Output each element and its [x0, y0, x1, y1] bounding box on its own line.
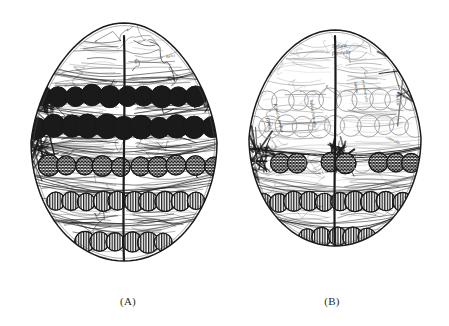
figure-caption-a: (A) — [98, 295, 158, 307]
figure-b-row-3-mixed — [255, 152, 421, 174]
figure-plate: Sulcigyrusossasutura SuturafrontalisGyru… — [0, 0, 449, 326]
figure-b-annotation-10: gyrus — [314, 203, 324, 209]
figure-b-drawing: SuturafrontalisGyrusfrontalis mediusSulc… — [236, 22, 434, 270]
figure-a-drawing: Sulcigyrusossasutura — [18, 14, 230, 286]
figure-b-annotation-7: Sulcus — [395, 94, 401, 106]
figure-caption-b: (B) — [302, 295, 362, 307]
figure-panel-a: Sulcigyrusossasutura — [18, 14, 230, 286]
figure-b-annotation-0: Sutura — [332, 42, 348, 49]
figure-panel-b: SuturafrontalisGyrusfrontalis mediusSulc… — [236, 22, 434, 270]
